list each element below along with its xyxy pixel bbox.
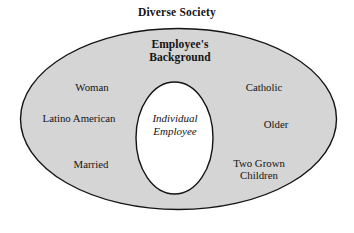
attribute-label-catholic: Catholic — [213, 81, 315, 93]
region-label-employees-background: Employee's Background — [128, 38, 232, 64]
attribute-label-two-grown-children: Two Grown Children — [208, 157, 310, 181]
diagram-title-diverse-society: Diverse Society — [0, 6, 354, 19]
attribute-label-married: Married — [44, 158, 138, 170]
attribute-label-older: Older — [230, 118, 322, 130]
attribute-label-latino-american: Latino American — [18, 112, 140, 124]
region-label-individual-employee: Individual Employee — [140, 112, 210, 139]
diagram-canvas: Diverse Society Employee's Background In… — [0, 0, 354, 233]
attribute-label-woman: Woman — [46, 81, 138, 93]
